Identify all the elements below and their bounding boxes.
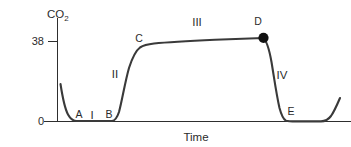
phase-label-iii: III xyxy=(192,16,202,28)
phase-label-iv: IV xyxy=(277,69,288,81)
point-label-c: C xyxy=(135,32,143,44)
co2-waveform-path xyxy=(61,38,341,121)
point-labels-group: A B C D E xyxy=(75,15,294,120)
point-label-e: E xyxy=(287,105,294,117)
capnography-figure: CO2 38 0 Time I II III IV A B C D E xyxy=(0,0,351,147)
point-label-a: A xyxy=(75,108,82,120)
end-tidal-marker-dot xyxy=(258,33,268,43)
point-label-d: D xyxy=(254,15,262,27)
x-axis-title: Time xyxy=(183,131,208,143)
axes-group xyxy=(44,18,351,122)
marker-group xyxy=(258,33,268,43)
y-axis-title-text: CO xyxy=(47,8,64,20)
y-tick-label-0: 0 xyxy=(38,115,44,127)
y-axis-title-subscript: 2 xyxy=(64,14,69,23)
point-label-b: B xyxy=(105,108,112,120)
waveform-group xyxy=(61,38,341,121)
y-axis-title: CO2 xyxy=(47,8,69,23)
phase-label-i: I xyxy=(90,109,93,121)
y-tick-label-38: 38 xyxy=(32,35,44,47)
capnography-plot: CO2 38 0 Time I II III IV A B C D E xyxy=(0,0,351,147)
phase-label-ii: II xyxy=(112,68,118,80)
axis-labels-group: CO2 38 0 Time xyxy=(32,8,209,143)
